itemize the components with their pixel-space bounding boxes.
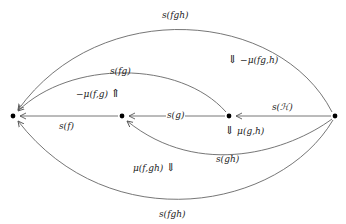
label-s-f: s(f) [59,122,74,131]
label-s-fg: s(fg) [110,67,131,76]
node-3 [333,114,338,119]
node-0 [11,114,16,119]
node-2 [227,114,232,119]
double-arrow-down-icon: ⇓ [166,161,175,174]
label-s-gh: s(gh) [216,155,239,164]
double-arrow-down-icon: ⇓ [228,53,237,66]
label-s-fgh-bottom: s(fgh) [159,210,186,219]
label-s-H: s(ℋ) [272,103,293,112]
edge-s-fgh-bottom [18,120,333,199]
label-s-fgh-top: s(fgh) [162,11,189,20]
two-cell-mu-f-g: −μ(f,g) ⇑ [76,88,120,99]
double-arrow-down-icon: ⇓ [225,124,234,137]
two-cell-mu-f-gh: μ(f,gh) ⇓ [133,162,175,173]
edge-s-fg [18,73,226,112]
edge-s-fgh-top [18,30,332,112]
double-arrow-up-icon: ⇑ [111,87,120,100]
node-1 [120,114,125,119]
two-cell-mu-g-h: ⇓ μ(g,h) [225,125,264,136]
two-cell-mu-fg-h: ⇓ −μ(fg,h) [228,54,278,65]
label-s-g: s(g) [166,111,185,120]
